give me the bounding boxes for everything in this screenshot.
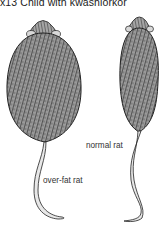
normal-rat-drawing (120, 17, 158, 222)
overfat-rat-label: over-fat rat (43, 176, 83, 185)
normal-rat-label: normal rat (86, 141, 123, 150)
rat-comparison-illustration (0, 0, 167, 230)
overfat-rat-drawing (7, 21, 81, 220)
